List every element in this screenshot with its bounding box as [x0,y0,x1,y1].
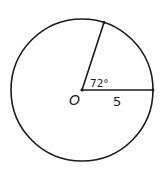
endpoint-top [103,21,106,24]
angle-label: 72° [90,77,109,89]
circle-diagram: O 72° 5 [0,0,161,172]
center-point [80,88,83,91]
center-label: O [69,92,80,108]
radius-label: 5 [113,94,121,109]
endpoint-right [152,89,155,92]
